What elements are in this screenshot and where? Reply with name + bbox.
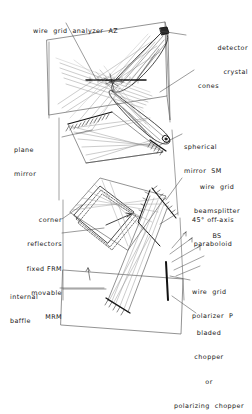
cone-lower [109, 90, 170, 144]
label-line: reflectors [4, 240, 62, 248]
label-line: corner [4, 216, 62, 224]
corner-reflector-mrm-dashed [76, 190, 138, 250]
label-line: baffle [10, 317, 60, 325]
label-line: plane [14, 146, 62, 154]
leader-corner-reflectors [62, 205, 82, 219]
label-bladed-chopper: bladed chopper or polarizing chopper [166, 313, 252, 414]
leader-spherical-mirror [158, 134, 182, 146]
label-line: paraboloid [176, 240, 250, 248]
lower-frame [70, 178, 166, 250]
internal-marks [86, 268, 90, 280]
label-line: detector [186, 44, 248, 52]
label-wire-grid-analyzer: wire grid analyzer AZ [33, 11, 183, 51]
plane-mirror-shape [68, 112, 112, 124]
leader-plane-mirror [62, 130, 92, 137]
label-line: wire grid [192, 288, 252, 296]
label-line: bladed [166, 329, 252, 337]
enclosure-lower [61, 270, 183, 334]
label-line: wire grid [184, 183, 250, 191]
label-line: polarizing chopper [166, 402, 252, 410]
label-line: internal [10, 293, 60, 301]
label-plane-mirror: plane mirror [14, 130, 62, 195]
wire-grid-polarizer-shape [166, 262, 168, 300]
leader-beamsplitter [166, 178, 182, 200]
enclosure-main [49, 30, 184, 300]
beam-column [108, 196, 168, 312]
label-line: 45° off-axis [176, 216, 250, 224]
label-line: or [166, 378, 252, 386]
label-internal-baffle: internal baffle [10, 277, 60, 342]
label-line: fixed FRM [4, 265, 62, 273]
label-line: spherical [184, 143, 250, 151]
label-line: wire grid analyzer AZ [33, 27, 183, 35]
wire-grid-beamsplitter-shape [152, 188, 176, 218]
label-line: chopper [166, 353, 252, 361]
label-off-axis-paraboloid: 45° off-axis paraboloid [176, 200, 250, 265]
label-line: cones [198, 82, 248, 90]
beamsplitter-hatching [153, 186, 175, 213]
label-cones: cones [198, 66, 248, 106]
label-line: mirror [14, 170, 62, 178]
